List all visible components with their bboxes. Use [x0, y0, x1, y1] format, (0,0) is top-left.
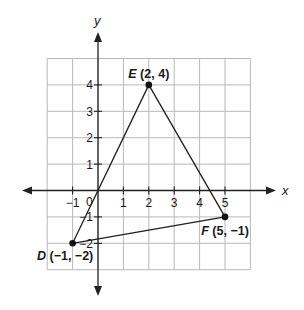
vertex-label-e: E (2, 4): [128, 67, 169, 81]
side-ef: [149, 85, 225, 217]
x-tick-label: 4: [196, 196, 203, 210]
y-axis-label: y: [93, 13, 102, 28]
y-tick-label: −1: [79, 210, 93, 224]
x-tick-label: 3: [171, 196, 178, 210]
coordinate-plane: x y 0 −112345−2−11234 E (2, 4)F (5, −1)D…: [0, 0, 304, 310]
vertex-d: [69, 240, 76, 247]
y-tick-label: 3: [86, 105, 93, 119]
vertex-label-f: F (5, −1): [201, 224, 249, 238]
vertex-coords: (2, 4): [137, 67, 170, 81]
vertex-label-d: D (−1, −2): [37, 249, 93, 263]
vertex-coords: (−1, −2): [46, 249, 93, 263]
x-tick-label: 5: [222, 196, 229, 210]
x-tick-label: 2: [145, 196, 152, 210]
x-tick-label: −1: [66, 196, 80, 210]
y-tick-label: 1: [86, 158, 93, 172]
x-axis-label: x: [281, 183, 289, 198]
coordinate-plane-figure: x y 0 −112345−2−11234 E (2, 4)F (5, −1)D…: [0, 0, 304, 310]
vertex-e: [146, 82, 153, 89]
vertex-name: D: [37, 249, 46, 263]
vertex-f: [222, 214, 229, 221]
y-axis-arrow-up-icon: [94, 32, 102, 42]
x-axis-arrow-left-icon: [22, 187, 32, 195]
x-tick-label: 1: [120, 196, 127, 210]
y-tick-label: 2: [86, 131, 93, 145]
x-axis-arrow-right-icon: [266, 187, 276, 195]
y-tick-label: 4: [86, 78, 93, 92]
y-axis-arrow-down-icon: [94, 286, 102, 296]
vertex-coords: (5, −1): [209, 224, 249, 238]
grid: [47, 59, 250, 270]
